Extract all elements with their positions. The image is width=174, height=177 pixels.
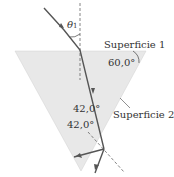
prism-diagram <box>0 0 174 177</box>
angle-60-label: 60,0° <box>108 58 135 68</box>
theta-subscript: 1 <box>73 22 77 30</box>
angle-42-lower-label: 42,0° <box>67 120 94 130</box>
surface2-label: Superficie 2 <box>113 110 174 120</box>
transmitted-ray <box>95 149 104 173</box>
theta1-label: θ1 <box>67 20 78 30</box>
angle-42-upper-label: 42,0° <box>73 104 100 114</box>
arrow-icon <box>59 23 64 28</box>
angle-arc-theta1 <box>69 34 80 37</box>
surface2-pointer <box>120 98 130 108</box>
surface1-label: Superficie 1 <box>104 40 165 50</box>
